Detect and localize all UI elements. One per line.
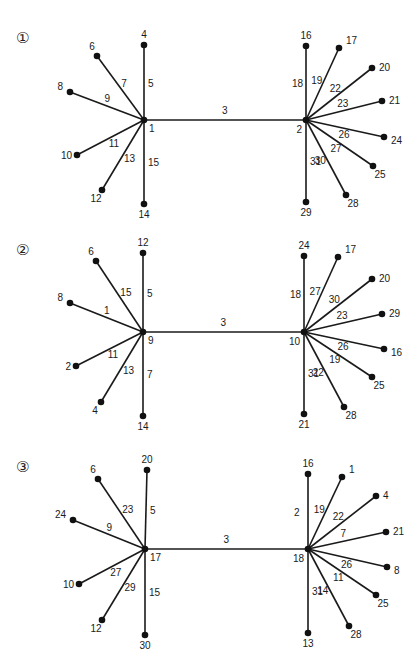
leaf-node (67, 300, 74, 307)
leaf-node (373, 493, 380, 500)
hub-node-right (301, 329, 308, 336)
leaf-node (73, 363, 80, 370)
node-label: 24 (391, 135, 403, 146)
edge-label: 11 (109, 138, 120, 149)
edge-label: 15 (120, 287, 132, 298)
edge-label: 26 (341, 559, 353, 570)
leaf-node (93, 258, 100, 265)
hub-label-right: 2 (296, 124, 302, 135)
node-label: 30 (139, 640, 151, 651)
node-label: 25 (377, 598, 389, 609)
edge-label: 31 (310, 156, 322, 167)
leaf-node (381, 134, 388, 141)
node-label: 14 (138, 209, 150, 220)
leaf-node (369, 276, 376, 283)
edge-label: 23 (122, 504, 134, 515)
node-label: 25 (374, 169, 386, 180)
node-label: 17 (345, 244, 357, 255)
edge-label: 13 (124, 153, 136, 164)
leaf-node (303, 199, 310, 206)
leaf-node (336, 45, 343, 52)
node-label: 28 (345, 410, 357, 421)
leaf-node (140, 250, 147, 257)
node-label: 16 (302, 458, 314, 469)
hub-label-right: 18 (293, 553, 305, 564)
node-label: 25 (373, 380, 385, 391)
edge-label: 1 (104, 305, 110, 316)
leaf-node (383, 529, 390, 536)
hub-node-left (142, 546, 149, 553)
hub-node-right (305, 546, 312, 553)
node-label: 28 (350, 629, 362, 640)
leaf-node (74, 152, 81, 159)
node-label: 4 (141, 29, 147, 40)
edge-label: 22 (333, 511, 345, 522)
leaf-node (305, 630, 312, 637)
node-label: 20 (141, 454, 153, 465)
node-label: 29 (300, 207, 312, 218)
node-label: 20 (379, 273, 391, 284)
edge-label: 19 (314, 504, 326, 515)
edge-label: 7 (121, 78, 127, 89)
node-label: 2 (65, 361, 71, 372)
node-label: 24 (298, 240, 310, 251)
edge-label: 9 (107, 522, 113, 533)
leaf-node (339, 474, 346, 481)
leaf-node (381, 346, 388, 353)
node-label: 8 (394, 565, 400, 576)
edge-label: 2 (294, 507, 300, 518)
edge-label: 5 (150, 505, 156, 516)
leaf-node (98, 399, 105, 406)
panel-number: ① (16, 29, 29, 47)
edge-label: 5 (147, 288, 153, 299)
leaf-node (384, 564, 391, 571)
hub-label-right: 10 (289, 336, 301, 347)
node-label: 12 (90, 623, 102, 634)
edge-label: 26 (339, 129, 351, 140)
edge-label: 3 (221, 317, 227, 328)
leaf-node (301, 253, 308, 260)
edge-label: 3 (224, 534, 230, 545)
edge-label: 18 (292, 78, 304, 89)
edge-label: 11 (108, 349, 119, 360)
edge-label: 22 (330, 83, 342, 94)
graph-diagram: ①345678910111213141516181719202221232426… (0, 0, 418, 653)
node-label: 1 (349, 464, 355, 475)
node-label: 13 (302, 638, 314, 649)
edge-label: 26 (338, 341, 350, 352)
node-label: 21 (298, 419, 310, 430)
leaf-node (305, 471, 312, 478)
leaf-node (303, 43, 310, 50)
edge-label: 5 (148, 78, 154, 89)
leaf-node (142, 632, 149, 639)
edge-label: 11 (333, 572, 344, 583)
leaf-node (335, 254, 342, 261)
node-label: 6 (90, 464, 96, 475)
node-label: 8 (57, 292, 63, 303)
node-label: 20 (379, 62, 391, 73)
edge-label: 18 (290, 289, 302, 300)
hub-label-left: 1 (149, 123, 155, 134)
hub-node-left (140, 329, 147, 336)
edge-label: 31 (312, 586, 324, 597)
node-label: 28 (347, 198, 359, 209)
edge-label: 29 (124, 582, 136, 593)
leaf-node (144, 467, 151, 474)
edge-label: 7 (341, 528, 347, 539)
edge-label: 31 (308, 368, 320, 379)
node-label: 6 (89, 41, 95, 52)
edge-label: 9 (104, 93, 110, 104)
edge-label: 7 (147, 369, 153, 380)
edge-label: 23 (337, 98, 349, 109)
hub-node-left (141, 117, 148, 124)
edge-label: 19 (329, 354, 341, 365)
leaf-node (141, 201, 148, 208)
node-label: 21 (389, 95, 401, 106)
leaf-node (369, 65, 376, 72)
leaf-node (301, 411, 308, 418)
edge-label: 30 (329, 294, 341, 305)
leaf-node (70, 517, 77, 524)
node-label: 8 (57, 81, 63, 92)
leaf-node (94, 53, 101, 60)
panel-number: ② (16, 241, 29, 259)
